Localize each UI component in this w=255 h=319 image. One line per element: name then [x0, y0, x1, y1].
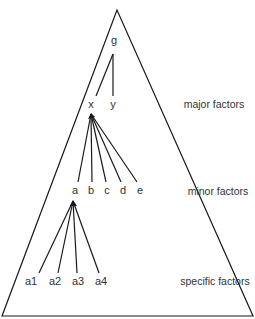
node-a2: a2 — [49, 275, 61, 287]
junction-a — [70, 200, 77, 206]
edges-a — [39, 200, 99, 273]
edges-x — [78, 113, 137, 182]
edge-x-a — [78, 114, 91, 182]
node-a1: a1 — [25, 275, 37, 287]
edge-a-a1 — [39, 201, 73, 273]
level-label-major: major factors — [184, 98, 245, 110]
edge-x-d — [91, 114, 121, 182]
edge-a-a2 — [58, 201, 73, 273]
edge-x-b — [91, 114, 92, 182]
node-e: e — [137, 184, 143, 196]
node-c: c — [104, 184, 110, 196]
node-d: d — [120, 184, 126, 196]
node-b: b — [88, 184, 94, 196]
level-label-minor: minor factors — [188, 185, 249, 197]
node-y: y — [110, 98, 116, 110]
node-x: x — [88, 98, 94, 110]
level-label-specific: specific factors — [180, 275, 249, 287]
node-g: g — [111, 34, 117, 46]
node-a4: a4 — [95, 275, 107, 287]
node-a: a — [72, 184, 79, 196]
node-a3: a3 — [72, 275, 84, 287]
factor-hierarchy-diagram: g x y major factors a b c d e minor fact… — [0, 0, 255, 319]
outer-triangle — [2, 10, 253, 316]
